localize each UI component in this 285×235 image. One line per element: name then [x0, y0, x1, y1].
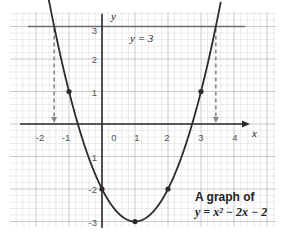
svg-text:-3: -3: [89, 217, 97, 228]
svg-text:0: 0: [111, 132, 116, 143]
caption-line-1: A graph of: [195, 190, 256, 204]
svg-text:4: 4: [232, 132, 237, 143]
svg-text:2: 2: [92, 54, 97, 65]
svg-text:1: 1: [92, 87, 97, 98]
svg-text:3: 3: [198, 132, 203, 143]
svg-text:3: 3: [92, 25, 97, 36]
x-axis-label: x: [251, 127, 257, 139]
svg-text:2: 2: [164, 132, 169, 143]
svg-text:-2: -2: [89, 184, 97, 195]
graph-figure: -2-1012343211-2-3 y x y = 3 A graph of y…: [0, 0, 285, 235]
svg-text:1: 1: [92, 152, 97, 163]
svg-text:1: 1: [134, 132, 139, 143]
hline-label: y = 3: [129, 32, 154, 44]
caption-line-2: y = x² − 2x − 2: [193, 205, 267, 219]
svg-text:-1: -1: [62, 132, 70, 143]
svg-text:-2: -2: [36, 132, 44, 143]
y-axis-label: y: [110, 10, 116, 22]
